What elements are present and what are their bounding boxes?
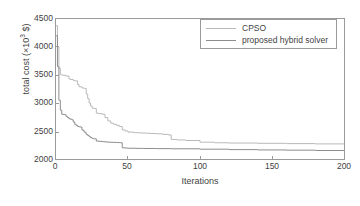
chart-figure: 4500 4000 3500 3000 2500 2000 0 50 100 1… [0, 0, 360, 206]
x-axis-label: Iterations [55, 176, 345, 186]
legend-item-proposed-hybrid-solver: proposed hybrid solver [201, 34, 336, 46]
legend-item-cpso: CPSO [201, 22, 336, 34]
y-axis-label-base: total cost (×10 [21, 38, 31, 95]
x-tick-label-50: 50 [112, 162, 142, 171]
x-tick-label-150: 150 [257, 162, 287, 171]
y-axis-label-exponent: 3 [19, 34, 26, 38]
legend: CPSO proposed hybrid solver [200, 19, 337, 49]
y-axis-label: total cost (×103 $) [21, 0, 31, 129]
x-tick-label-100: 100 [185, 162, 215, 171]
line-series-proposed-hybrid-solver [56, 36, 344, 151]
x-tick-label-0: 0 [40, 162, 70, 171]
legend-swatch-cpso [206, 28, 236, 29]
legend-label-proposed-hybrid-solver: proposed hybrid solver [242, 36, 328, 45]
x-tick-label-200: 200 [329, 162, 359, 171]
legend-label-cpso: CPSO [242, 24, 266, 33]
legend-swatch-proposed-hybrid-solver [206, 40, 236, 41]
y-axis-label-tail: $) [21, 24, 31, 35]
